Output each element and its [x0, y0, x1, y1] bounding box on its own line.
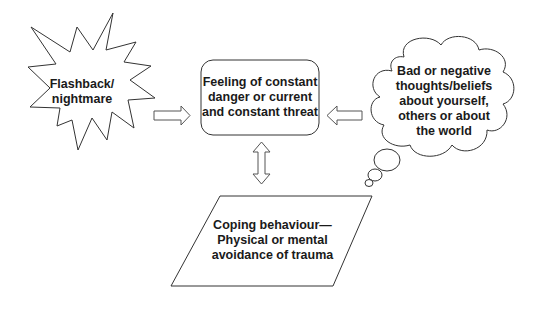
- flashback-node-label: Flashback/ nightmare: [44, 72, 120, 112]
- arrow-right-icon: [154, 106, 190, 125]
- arrow-left-icon: [327, 106, 362, 125]
- coping-node-label: Coping behaviour— Physical or mental avo…: [200, 208, 345, 272]
- thoughts-node-label: Bad or negative thoughts/beliefs about y…: [392, 62, 496, 140]
- diagram-canvas: Flashback/ nightmare Feeling of constant…: [0, 0, 546, 310]
- feeling-node-label: Feeling of constant danger or current an…: [201, 60, 319, 135]
- arrow-up-down-icon: [253, 142, 270, 184]
